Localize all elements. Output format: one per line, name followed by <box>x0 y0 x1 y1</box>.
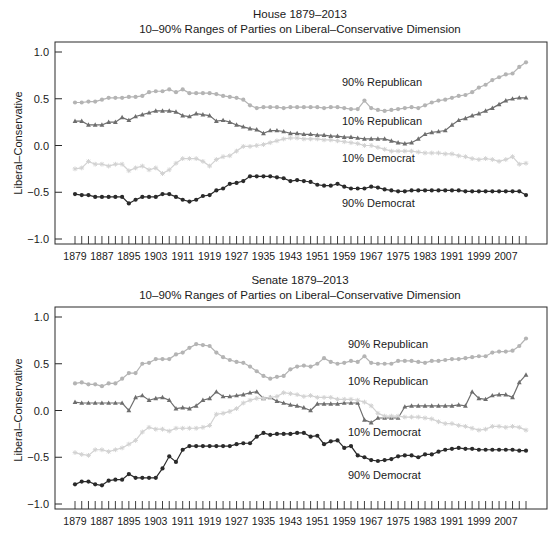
y-tick-label: −0.5 <box>27 451 49 463</box>
x-tick-label: 1903 <box>144 515 168 527</box>
senate-y-axis: 1.00.50.0−0.5−1.0 <box>27 311 62 510</box>
y-tick-label: −0.5 <box>27 186 49 198</box>
x-tick-label: 2007 <box>494 515 518 527</box>
house-series <box>73 60 529 205</box>
house-label-90-republican: 90% Republican <box>342 76 422 88</box>
house-x-axis: 1879188718951903191119191927193519431951… <box>63 236 526 262</box>
senate-series <box>73 336 529 487</box>
x-tick-label: 1999 <box>467 250 491 262</box>
series-10-republican <box>73 372 529 424</box>
x-tick-label: 1911 <box>171 515 194 527</box>
senate-panel: Senate 1879–2013 10–90% Ranges of Partie… <box>12 274 547 527</box>
x-tick-label: 1991 <box>440 515 464 527</box>
x-tick-label: 1991 <box>440 250 464 262</box>
x-tick-label: 1967 <box>359 515 383 527</box>
x-tick-label: 1951 <box>306 250 330 262</box>
x-tick-label: 1879 <box>63 250 87 262</box>
x-tick-label: 1887 <box>90 515 114 527</box>
series-90-democrat <box>73 174 528 205</box>
x-tick-label: 1919 <box>198 515 222 527</box>
x-tick-label: 1895 <box>117 250 141 262</box>
x-tick-label: 1887 <box>90 250 114 262</box>
y-tick-label: 0.5 <box>34 358 49 370</box>
x-tick-label: 1903 <box>144 250 168 262</box>
x-tick-label: 1895 <box>117 515 141 527</box>
senate-label-90-republican: 90% Republican <box>348 338 428 350</box>
x-tick-label: 1975 <box>386 250 410 262</box>
senate-x-axis: 1879188718951903191119191927193519431951… <box>63 501 526 527</box>
senate-label-10-republican: 10% Republican <box>348 375 428 387</box>
house-subtitle: 10–90% Ranges of Parties on Liberal–Cons… <box>139 23 461 35</box>
x-tick-label: 1975 <box>386 515 410 527</box>
x-tick-label: 1983 <box>413 515 437 527</box>
x-tick-label: 1927 <box>225 515 249 527</box>
series-90-democrat <box>73 431 528 488</box>
y-tick-label: −1.0 <box>27 233 49 245</box>
x-tick-label: 1999 <box>467 515 491 527</box>
series-90-republican <box>73 60 528 113</box>
x-tick-label: 1951 <box>306 515 330 527</box>
x-tick-label: 1911 <box>171 250 194 262</box>
y-tick-label: 0.5 <box>34 93 49 105</box>
senate-y-axis-label: Liberal–Conservative <box>12 358 24 461</box>
y-tick-label: 1.0 <box>34 46 49 58</box>
x-tick-label: 1943 <box>279 515 303 527</box>
series-90-republican <box>73 336 528 388</box>
senate-label-90-democrat: 90% Democrat <box>348 469 421 481</box>
house-label-90-democrat: 90% Democrat <box>342 197 415 209</box>
x-tick-label: 1959 <box>333 515 357 527</box>
y-tick-label: 1.0 <box>34 311 49 323</box>
x-tick-label: 1967 <box>359 250 383 262</box>
senate-label-10-democrat: 10% Democrat <box>348 426 421 438</box>
senate-title: Senate 1879–2013 <box>251 274 348 286</box>
y-tick-label: 0.0 <box>34 405 49 417</box>
x-tick-label: 1943 <box>279 250 303 262</box>
y-tick-label: −1.0 <box>27 498 49 510</box>
house-label-10-republican: 10% Republican <box>342 115 422 127</box>
chart-canvas: House 1879–2013 10–90% Ranges of Parties… <box>0 0 560 540</box>
x-tick-label: 1983 <box>413 250 437 262</box>
x-tick-label: 1959 <box>333 250 357 262</box>
house-title: House 1879–2013 <box>253 8 347 20</box>
x-tick-label: 1919 <box>198 250 222 262</box>
series-10-democrat <box>73 136 529 176</box>
x-tick-label: 1927 <box>225 250 249 262</box>
x-tick-label: 1879 <box>63 515 87 527</box>
house-label-10-democrat: 10% Democrat <box>342 152 415 164</box>
house-y-axis: 1.00.50.0−0.5−1.0 <box>27 46 62 245</box>
house-panel: House 1879–2013 10–90% Ranges of Parties… <box>12 8 547 262</box>
x-tick-label: 1935 <box>252 250 276 262</box>
x-tick-label: 2007 <box>494 250 518 262</box>
house-plot-frame <box>55 42 547 244</box>
x-tick-label: 1935 <box>252 515 276 527</box>
senate-subtitle: 10–90% Ranges of Parties on Liberal–Cons… <box>139 289 461 301</box>
house-y-axis-label: Liberal–Conservative <box>12 91 24 194</box>
y-tick-label: 0.0 <box>34 140 49 152</box>
